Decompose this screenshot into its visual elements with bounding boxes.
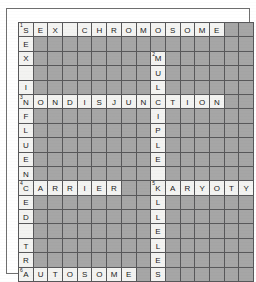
- crossword-blocked-cell: [210, 224, 225, 238]
- crossword-cell[interactable]: Y: [239, 181, 254, 195]
- crossword-cell[interactable]: D: [63, 95, 78, 109]
- crossword-blocked-cell: [122, 66, 137, 80]
- crossword-cell[interactable]: O: [151, 23, 166, 37]
- crossword-cell[interactable]: L: [151, 196, 166, 210]
- crossword-cell[interactable]: O: [63, 268, 78, 282]
- crossword-cell[interactable]: R: [107, 181, 122, 195]
- crossword-cell[interactable]: O: [122, 23, 137, 37]
- crossword-cell[interactable]: S: [92, 95, 107, 109]
- crossword-blocked-cell: [210, 196, 225, 210]
- crossword-cell[interactable]: E: [151, 224, 166, 238]
- crossword-cell[interactable]: R: [19, 253, 34, 267]
- crossword-cell[interactable]: P: [151, 124, 166, 138]
- crossword-cell[interactable]: I: [181, 95, 196, 109]
- crossword-cell[interactable]: E: [34, 23, 49, 37]
- crossword-cell[interactable]: U: [19, 138, 34, 152]
- crossword-cell[interactable]: X: [19, 52, 34, 66]
- crossword-cell[interactable]: D: [19, 210, 34, 224]
- crossword-cell[interactable]: J: [107, 95, 122, 109]
- crossword-cell[interactable]: N: [137, 95, 152, 109]
- crossword-cell[interactable]: [151, 167, 166, 181]
- cell-letter: J: [112, 99, 116, 107]
- crossword-cell[interactable]: 5K: [151, 181, 166, 195]
- crossword-cell[interactable]: R: [63, 181, 78, 195]
- crossword-cell[interactable]: S: [151, 268, 166, 282]
- crossword-cell[interactable]: I: [78, 181, 93, 195]
- crossword-cell[interactable]: O: [210, 181, 225, 195]
- crossword-blocked-cell: [107, 253, 122, 267]
- crossword-cell[interactable]: U: [151, 66, 166, 80]
- crossword-cell[interactable]: A: [166, 181, 181, 195]
- crossword-cell[interactable]: A: [34, 181, 49, 195]
- crossword-cell[interactable]: C: [151, 95, 166, 109]
- crossword-cell[interactable]: E: [151, 153, 166, 167]
- crossword-cell[interactable]: I: [78, 95, 93, 109]
- crossword-cell[interactable]: 6A: [19, 268, 34, 282]
- crossword-cell[interactable]: F: [19, 109, 34, 123]
- crossword-blocked-cell: [34, 224, 49, 238]
- crossword-blocked-cell: [92, 153, 107, 167]
- crossword-cell[interactable]: L: [19, 124, 34, 138]
- crossword-cell[interactable]: 2M: [151, 52, 166, 66]
- crossword-blocked-cell: [181, 210, 196, 224]
- crossword-cell[interactable]: U: [122, 95, 137, 109]
- crossword-cell[interactable]: 4C: [19, 181, 34, 195]
- crossword-cell[interactable]: R: [181, 181, 196, 195]
- crossword-cell[interactable]: T: [166, 95, 181, 109]
- crossword-cell[interactable]: E: [210, 23, 225, 37]
- crossword-cell[interactable]: C: [78, 23, 93, 37]
- crossword-cell[interactable]: O: [195, 95, 210, 109]
- crossword-cell[interactable]: T: [225, 181, 240, 195]
- crossword-cell[interactable]: H: [92, 23, 107, 37]
- crossword-cell[interactable]: I: [19, 81, 34, 95]
- cell-letter: U: [155, 70, 161, 78]
- crossword-cell[interactable]: S: [78, 268, 93, 282]
- crossword-cell[interactable]: L: [151, 210, 166, 224]
- crossword-blocked-cell: [225, 196, 240, 210]
- crossword-blocked-cell: [166, 124, 181, 138]
- crossword-cell[interactable]: E: [19, 153, 34, 167]
- crossword-cell[interactable]: M: [195, 23, 210, 37]
- crossword-cell[interactable]: O: [92, 268, 107, 282]
- crossword-cell[interactable]: R: [107, 23, 122, 37]
- crossword-cell[interactable]: L: [151, 81, 166, 95]
- crossword-cell[interactable]: [63, 23, 78, 37]
- crossword-blocked-cell: [195, 253, 210, 267]
- crossword-grid[interactable]: 1SEXCHROMOSOMEEX2MUIL3NONDISJUNCTIONFILP…: [18, 22, 254, 282]
- crossword-cell[interactable]: E: [19, 37, 34, 51]
- crossword-cell[interactable]: T: [19, 239, 34, 253]
- crossword-cell[interactable]: N: [19, 167, 34, 181]
- crossword-blocked-cell: [34, 109, 49, 123]
- crossword-cell[interactable]: X: [48, 23, 63, 37]
- crossword-cell[interactable]: O: [181, 23, 196, 37]
- crossword-cell[interactable]: U: [34, 268, 49, 282]
- crossword-cell[interactable]: E: [19, 196, 34, 210]
- crossword-cell[interactable]: N: [48, 95, 63, 109]
- crossword-cell[interactable]: M: [137, 23, 152, 37]
- crossword-cell[interactable]: E: [122, 268, 137, 282]
- crossword-cell[interactable]: [19, 66, 34, 80]
- crossword-cell[interactable]: L: [151, 239, 166, 253]
- crossword-blocked-cell: [166, 239, 181, 253]
- crossword-blocked-cell: [225, 109, 240, 123]
- crossword-cell[interactable]: M: [107, 268, 122, 282]
- crossword-blocked-cell: [78, 52, 93, 66]
- crossword-cell[interactable]: S: [166, 23, 181, 37]
- crossword-blocked-cell: [63, 196, 78, 210]
- crossword-cell[interactable]: T: [48, 268, 63, 282]
- crossword-cell[interactable]: E: [92, 181, 107, 195]
- crossword-cell[interactable]: I: [151, 109, 166, 123]
- crossword-cell[interactable]: 3N: [19, 95, 34, 109]
- crossword-cell[interactable]: 1S: [19, 23, 34, 37]
- crossword-cell[interactable]: Y: [195, 181, 210, 195]
- crossword-cell[interactable]: E: [151, 253, 166, 267]
- crossword-cell[interactable]: L: [151, 138, 166, 152]
- crossword-cell[interactable]: N: [210, 95, 225, 109]
- crossword-cell[interactable]: [19, 224, 34, 238]
- crossword-cell[interactable]: O: [34, 95, 49, 109]
- crossword-blocked-cell: [122, 52, 137, 66]
- crossword-blocked-cell: [107, 37, 122, 51]
- crossword-cell[interactable]: R: [48, 181, 63, 195]
- crossword-blocked-cell: [92, 66, 107, 80]
- crossword-blocked-cell: [181, 253, 196, 267]
